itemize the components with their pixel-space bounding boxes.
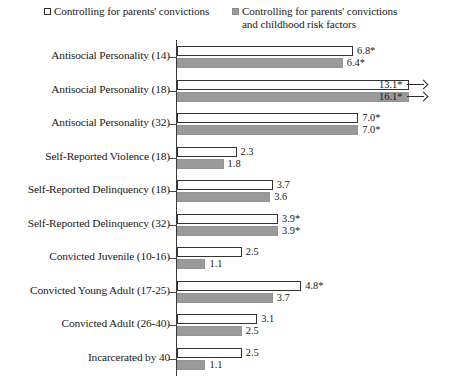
category-label: Convicted Young Adult (17-25) bbox=[0, 284, 170, 297]
bar bbox=[177, 214, 278, 224]
bar-series-a: 2.3 bbox=[177, 147, 254, 157]
bar-group: Antisocial Personality (18)13.1*16.1* bbox=[0, 76, 468, 110]
legend-label-series-b: Controlling for parents' convictions and… bbox=[242, 5, 397, 31]
bar-value-label: 2.5 bbox=[246, 326, 259, 336]
category-label: Antisocial Personality (32) bbox=[0, 116, 170, 129]
bar-series-b: 16.1* bbox=[177, 92, 429, 102]
truncation-arrow-icon bbox=[407, 80, 429, 90]
bar bbox=[177, 180, 273, 190]
bar bbox=[177, 226, 278, 236]
bar-group: Self-Reported Violence (18)2.31.8 bbox=[0, 143, 468, 177]
bar-value-label: 6.4* bbox=[347, 58, 365, 68]
truncation-arrow-icon bbox=[407, 92, 429, 102]
axis-tick bbox=[169, 124, 177, 125]
bar-series-a: 13.1* bbox=[177, 80, 429, 90]
bar-value-label: 3.7 bbox=[277, 293, 290, 303]
bar-chart-plot-area: Antisocial Personality (14)6.8*6.4*Antis… bbox=[0, 40, 468, 376]
bar-series-b: 2.5 bbox=[177, 326, 259, 336]
bar-series-a: 2.5 bbox=[177, 247, 259, 257]
bar bbox=[177, 46, 353, 56]
axis-tick bbox=[169, 258, 177, 259]
bar bbox=[177, 293, 273, 303]
bar-value-label: 4.8* bbox=[305, 281, 323, 291]
bar bbox=[177, 80, 409, 90]
bar-value-label: 3.1 bbox=[261, 314, 274, 324]
category-label: Antisocial Personality (14) bbox=[0, 49, 170, 62]
bar bbox=[177, 58, 343, 68]
bar-value-label: 3.9* bbox=[282, 214, 300, 224]
category-label: Self-Reported Violence (18) bbox=[0, 150, 170, 163]
bar-series-b: 3.6 bbox=[177, 192, 287, 202]
axis-tick bbox=[169, 359, 177, 360]
category-label: Antisocial Personality (18) bbox=[0, 83, 170, 96]
bar-series-a: 6.8* bbox=[177, 46, 375, 56]
bar-series-b: 6.4* bbox=[177, 58, 365, 68]
bar-series-a: 7.0* bbox=[177, 113, 380, 123]
bar-value-label: 2.5 bbox=[246, 348, 259, 358]
bar-value-label: 3.6 bbox=[274, 192, 287, 202]
axis-tick bbox=[169, 325, 177, 326]
category-label: Convicted Juvenile (10-16) bbox=[0, 250, 170, 263]
bar bbox=[177, 348, 242, 358]
axis-tick bbox=[169, 57, 177, 58]
legend-entry-series-a: Controlling for parents' convictions bbox=[44, 5, 209, 18]
bar-series-b: 3.9* bbox=[177, 226, 300, 236]
bar-series-a: 3.9* bbox=[177, 214, 300, 224]
bar-series-b: 1.1 bbox=[177, 360, 222, 370]
bar-series-a: 3.7 bbox=[177, 180, 290, 190]
bar-series-b: 1.1 bbox=[177, 259, 222, 269]
axis-tick bbox=[169, 292, 177, 293]
bar-group: Convicted Juvenile (10-16)2.51.1 bbox=[0, 243, 468, 277]
bar-value-label: 16.1* bbox=[379, 92, 402, 102]
bar-value-label: 6.8* bbox=[357, 46, 375, 56]
bar-group: Self-Reported Delinquency (32)3.9*3.9* bbox=[0, 210, 468, 244]
bar-value-label: 7.0* bbox=[362, 125, 380, 135]
bar bbox=[177, 281, 301, 291]
bar bbox=[177, 360, 205, 370]
bar bbox=[177, 92, 409, 102]
axis-tick bbox=[169, 158, 177, 159]
bar bbox=[177, 147, 237, 157]
filled-square-icon bbox=[232, 8, 239, 15]
bar bbox=[177, 259, 205, 269]
bar-value-label: 2.3 bbox=[241, 147, 254, 157]
bar-group: Antisocial Personality (14)6.8*6.4* bbox=[0, 42, 468, 76]
bar-series-a: 2.5 bbox=[177, 348, 259, 358]
bar-series-b: 7.0* bbox=[177, 125, 380, 135]
bar-group: Antisocial Personality (32)7.0*7.0* bbox=[0, 109, 468, 143]
bar-value-label: 1.1 bbox=[209, 259, 222, 269]
open-square-icon bbox=[44, 8, 51, 15]
bar-series-a: 4.8* bbox=[177, 281, 324, 291]
bar-group: Convicted Adult (26-40)3.12.5 bbox=[0, 310, 468, 344]
bar-value-label: 13.1* bbox=[379, 80, 402, 90]
bar-group: Incarcerated by 402.51.1 bbox=[0, 344, 468, 376]
legend-entry-series-b: Controlling for parents' convictions and… bbox=[232, 5, 397, 31]
bar-group: Convicted Young Adult (17-25)4.8*3.7 bbox=[0, 277, 468, 311]
bar bbox=[177, 159, 224, 169]
bar bbox=[177, 192, 270, 202]
axis-tick bbox=[169, 225, 177, 226]
bar-series-b: 1.8 bbox=[177, 159, 241, 169]
bar bbox=[177, 247, 242, 257]
bar-value-label: 1.1 bbox=[209, 360, 222, 370]
category-label: Self-Reported Delinquency (32) bbox=[0, 217, 170, 230]
bar-value-label: 3.9* bbox=[282, 226, 300, 236]
bar-value-label: 2.5 bbox=[246, 247, 259, 257]
category-label: Self-Reported Delinquency (18) bbox=[0, 183, 170, 196]
bar bbox=[177, 125, 358, 135]
bar-group: Self-Reported Delinquency (18)3.73.6 bbox=[0, 176, 468, 210]
bar-value-label: 1.8 bbox=[228, 159, 241, 169]
bar bbox=[177, 326, 242, 336]
bar bbox=[177, 314, 257, 324]
axis-tick bbox=[169, 91, 177, 92]
category-label: Incarcerated by 40 bbox=[0, 351, 170, 364]
axis-tick bbox=[169, 191, 177, 192]
legend-label-series-a: Controlling for parents' convictions bbox=[54, 5, 209, 18]
bar-value-label: 3.7 bbox=[277, 180, 290, 190]
bar-series-a: 3.1 bbox=[177, 314, 274, 324]
category-label: Convicted Adult (26-40) bbox=[0, 317, 170, 330]
chart-legend: Controlling for parents' convictions Con… bbox=[0, 4, 468, 38]
bar bbox=[177, 113, 358, 123]
bar-series-b: 3.7 bbox=[177, 293, 290, 303]
bar-value-label: 7.0* bbox=[362, 113, 380, 123]
